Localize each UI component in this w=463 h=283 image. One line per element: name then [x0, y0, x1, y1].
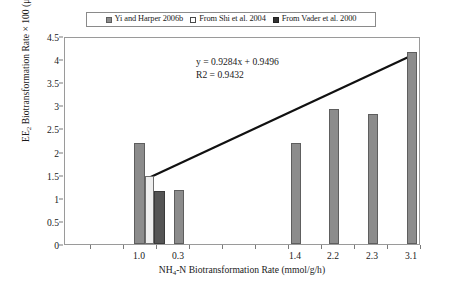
legend-item-2[interactable]: From Vader et al. 2000	[273, 15, 357, 23]
x-tick-mark	[255, 245, 256, 249]
x-tick-label: 0.3	[172, 250, 184, 261]
x-tick-mark	[420, 245, 421, 249]
y-tick-label: 3.5	[47, 78, 59, 89]
y-tick-mark	[59, 152, 63, 153]
r-squared-line: R2 = 0.9432	[196, 69, 279, 82]
y-tick-mark	[59, 221, 63, 222]
x-tick-mark	[288, 245, 289, 249]
x-axis-title-post: -N Biotransformation Rate (mmol/g/h)	[176, 264, 325, 275]
bar	[407, 52, 417, 244]
bar	[291, 143, 301, 244]
bar	[174, 190, 184, 244]
x-tick-mark	[123, 245, 124, 249]
x-tick-label: 1.0	[133, 250, 145, 261]
y-tick-label: 0.5	[47, 216, 59, 227]
y-tick-label: 2.5	[47, 124, 59, 135]
y-tick-mark	[59, 198, 63, 199]
legend-label-1: From Shi et al. 2004	[199, 15, 266, 23]
x-tick-label: 1.4	[289, 250, 301, 261]
x-tick-label: 2.2	[327, 250, 339, 261]
equation-line: y = 0.9284x + 0.9496	[196, 56, 279, 69]
legend-item-1[interactable]: From Shi et al. 2004	[190, 15, 266, 23]
x-tick-mark	[387, 245, 388, 249]
bar	[154, 191, 165, 244]
legend-swatch-filled-square-icon	[106, 17, 112, 23]
x-axis-title-pre: NH	[159, 264, 173, 275]
legend-swatch-filled-square-dark-icon	[273, 17, 279, 23]
bar	[134, 143, 145, 244]
x-tick-mark	[321, 245, 322, 249]
x-tick-mark	[156, 245, 157, 249]
x-tick-mark	[354, 245, 355, 249]
trendline-equation-annotation: y = 0.9284x + 0.9496 R2 = 0.9432	[196, 56, 279, 81]
bar	[145, 176, 154, 244]
legend-label-0: Yi and Harper 2006b	[115, 15, 184, 23]
chart-legend: Yi and Harper 2006b From Shi et al. 2004…	[86, 12, 376, 27]
y-tick-mark	[59, 175, 63, 176]
y-tick-mark	[59, 83, 63, 84]
y-axis-title: EE2 Biotransformation Rate × 100 (μmol/g…	[20, 0, 32, 158]
y-axis-ticks: 00.511.522.533.544.5	[36, 37, 59, 245]
x-tick-label: 2.3	[366, 250, 378, 261]
y-axis-title-post: Biotransformation Rate × 100 (μmol/g/h)	[20, 0, 31, 127]
y-tick-mark	[59, 245, 63, 246]
x-tick-label: 3.1	[405, 250, 417, 261]
chart-figure: Yi and Harper 2006b From Shi et al. 2004…	[0, 0, 463, 283]
y-axis-title-pre: EE	[20, 130, 31, 142]
legend-label-2: From Vader et al. 2000	[282, 15, 357, 23]
y-tick-mark	[59, 106, 63, 107]
x-tick-mark	[222, 245, 223, 249]
bar	[329, 109, 339, 244]
x-axis-title: NH4-N Biotransformation Rate (mmol/g/h)	[64, 264, 420, 276]
legend-item-0[interactable]: Yi and Harper 2006b	[106, 15, 184, 23]
x-tick-mark	[189, 245, 190, 249]
legend-swatch-open-square-icon	[190, 17, 196, 23]
y-axis-title-sub: 2	[25, 127, 32, 130]
y-tick-mark	[59, 129, 63, 130]
y-tick-label: 4.5	[47, 32, 59, 43]
bar	[368, 114, 378, 244]
y-tick-mark	[59, 37, 63, 38]
y-tick-label: 1.5	[47, 170, 59, 181]
x-tick-mark	[90, 245, 91, 249]
y-tick-mark	[59, 60, 63, 61]
